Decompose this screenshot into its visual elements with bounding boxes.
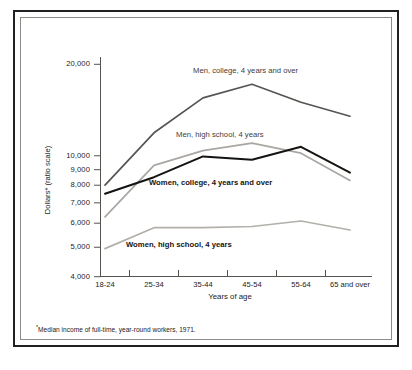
y-axis-title-text: Dollars* (ratio scale) [43,121,52,239]
y-axis-title: Dollars* (ratio scale) [30,3,39,121]
line-chart: 20,00010,0009,0008,0007,0006,0005,0004,0… [0,0,412,370]
x-axis-ticks [130,270,326,277]
series-label-women-college: Women, college, 4 years and over [149,178,272,187]
y-axis-ticks [94,64,101,276]
series-label-women-high-school: Women, high school, 4 years [126,240,232,249]
series-lines [105,84,350,248]
footnote-text: Median income of full-time, year-round w… [38,326,196,333]
series-label-men-college: Men, college, 4 years and over [193,66,298,75]
x-axis-category-label: 65 and over [318,280,382,289]
series-label-men-high-school: Men, high school, 4 years [176,130,264,139]
y-axis-tick-label: 20,000 [40,59,90,68]
x-axis-title: Years of age [150,292,310,301]
y-axis-tick-label: 5,000 [40,242,90,251]
figure-footnote: *Median income of full-time, year-round … [36,324,196,333]
